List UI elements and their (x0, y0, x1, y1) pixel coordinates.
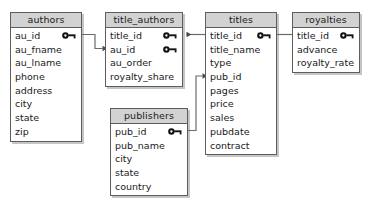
field-name: country (115, 180, 151, 194)
field-row[interactable]: title_id (106, 29, 182, 43)
field-row[interactable]: address (11, 84, 81, 98)
field-name: pub_name (115, 139, 165, 153)
key-icon (168, 128, 182, 135)
field-name: advance (297, 43, 337, 57)
field-row[interactable]: title_id (206, 29, 276, 43)
field-name: au_id (15, 29, 40, 43)
field-row[interactable]: pubdate (206, 125, 276, 139)
field-name: au_fname (15, 43, 62, 57)
key-icon (163, 46, 177, 53)
connector-publishers-titles (188, 76, 203, 131)
entity-field-list-royalties: title_idadvanceroyalty_rate (293, 28, 359, 72)
field-name: sales (210, 111, 234, 125)
entity-header-publishers: publishers (111, 109, 187, 124)
entity-table-authors[interactable]: authorsau_idau_fnameau_lnamephoneaddress… (10, 12, 82, 142)
field-name: royalty_rate (297, 56, 354, 70)
field-name: price (210, 97, 234, 111)
field-name: royalty_share (110, 70, 174, 84)
field-name: title_id (110, 29, 142, 43)
entity-header-title_authors: title_authors (106, 13, 182, 28)
field-name: address (15, 84, 52, 98)
field-row[interactable]: city (111, 152, 187, 166)
field-name: state (115, 166, 139, 180)
field-row[interactable]: sales (206, 111, 276, 125)
entity-table-title_authors[interactable]: title_authorstitle_idau_idau_orderroyalt… (105, 12, 183, 87)
field-row[interactable]: pub_id (206, 70, 276, 84)
field-name: title_id (297, 29, 329, 43)
field-row[interactable]: pages (206, 84, 276, 98)
field-row[interactable]: phone (11, 70, 81, 84)
entity-table-royalties[interactable]: royaltiestitle_idadvanceroyalty_rate (292, 12, 360, 73)
field-name: contract (210, 139, 249, 153)
field-row[interactable]: royalty_share (106, 70, 182, 84)
connector-authors-title-authors (82, 35, 103, 49)
field-row[interactable]: state (111, 166, 187, 180)
entity-field-list-titles: title_idtitle_nametypepub_idpagespricesa… (206, 28, 276, 154)
field-row[interactable]: country (111, 180, 187, 194)
key-icon (340, 32, 354, 39)
entity-header-titles: titles (206, 13, 276, 28)
key-icon (163, 32, 177, 39)
field-name: au_id (110, 43, 135, 57)
field-name: phone (15, 70, 45, 84)
field-name: city (115, 152, 132, 166)
field-name: title_name (210, 43, 260, 57)
field-name: pub_id (115, 125, 147, 139)
field-row[interactable]: title_name (206, 43, 276, 57)
field-row[interactable]: city (11, 97, 81, 111)
field-row[interactable]: au_lname (11, 56, 81, 70)
field-name: title_id (210, 29, 242, 43)
field-name: au_order (110, 56, 152, 70)
field-row[interactable]: au_fname (11, 43, 81, 57)
field-row[interactable]: pub_id (111, 125, 187, 139)
field-name: au_lname (15, 56, 61, 70)
field-name: pubdate (210, 125, 250, 139)
field-row[interactable]: state (11, 111, 81, 125)
entity-header-royalties: royalties (293, 13, 359, 28)
field-row[interactable]: contract (206, 139, 276, 153)
field-row[interactable]: type (206, 56, 276, 70)
field-name: city (15, 97, 32, 111)
key-icon (257, 32, 271, 39)
er-diagram-canvas: authorsau_idau_fnameau_lnamephoneaddress… (0, 0, 370, 207)
key-icon (62, 32, 76, 39)
field-row[interactable]: zip (11, 125, 81, 139)
field-name: zip (15, 125, 29, 139)
field-row[interactable]: au_id (106, 43, 182, 57)
field-name: state (15, 111, 39, 125)
field-row[interactable]: au_order (106, 56, 182, 70)
field-row[interactable]: pub_name (111, 139, 187, 153)
field-row[interactable]: au_id (11, 29, 81, 43)
field-row[interactable]: advance (293, 43, 359, 57)
field-name: pub_id (210, 70, 242, 84)
field-name: pages (210, 84, 239, 98)
entity-field-list-title_authors: title_idau_idau_orderroyalty_share (106, 28, 182, 86)
field-row[interactable]: price (206, 97, 276, 111)
entity-header-authors: authors (11, 13, 81, 28)
field-row[interactable]: title_id (293, 29, 359, 43)
entity-field-list-authors: au_idau_fnameau_lnamephoneaddresscitysta… (11, 28, 81, 141)
entity-table-publishers[interactable]: publisherspub_idpub_namecitystatecountry (110, 108, 188, 196)
entity-field-list-publishers: pub_idpub_namecitystatecountry (111, 124, 187, 195)
entity-table-titles[interactable]: titlestitle_idtitle_nametypepub_idpagesp… (205, 12, 277, 155)
field-name: type (210, 56, 231, 70)
field-row[interactable]: royalty_rate (293, 56, 359, 70)
